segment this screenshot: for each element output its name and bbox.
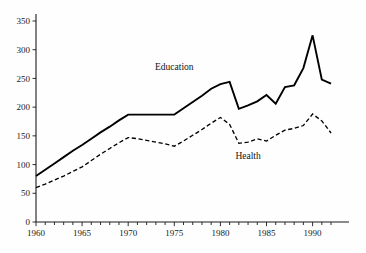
line-chart-figure: 050100150200250300350 196019651970197519… <box>0 0 366 253</box>
y-tick-label: 50 <box>21 188 31 198</box>
education-label: Education <box>155 62 194 72</box>
series-annotation-group: EducationHealth <box>155 62 261 160</box>
x-tick-label: 1975 <box>165 228 184 238</box>
y-tick-label: 100 <box>17 160 31 170</box>
x-tick-label: 1985 <box>258 228 277 238</box>
health-label: Health <box>235 151 261 161</box>
series-line-health <box>36 114 331 188</box>
x-axis-tick-group: 1960196519701975198019851990 <box>27 222 331 238</box>
y-tick-label: 0 <box>26 217 31 227</box>
y-tick-label: 150 <box>17 131 31 141</box>
y-tick-label: 200 <box>17 102 31 112</box>
y-tick-label: 300 <box>17 45 31 55</box>
y-tick-label: 350 <box>17 16 31 26</box>
y-tick-label: 250 <box>17 74 31 84</box>
series-line-education <box>36 35 331 176</box>
x-tick-label: 1980 <box>211 228 230 238</box>
x-tick-label: 1990 <box>304 228 323 238</box>
x-tick-label: 1960 <box>27 228 46 238</box>
y-axis-tick-group: 050100150200250300350 <box>17 16 37 227</box>
x-tick-label: 1970 <box>119 228 138 238</box>
chart-canvas: 050100150200250300350 196019651970197519… <box>0 0 366 253</box>
x-tick-label: 1965 <box>73 228 92 238</box>
